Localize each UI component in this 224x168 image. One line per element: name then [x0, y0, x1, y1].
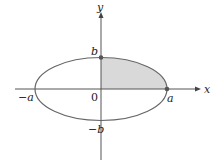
point-a-0: [165, 87, 170, 92]
x-axis-arrow-icon: [195, 87, 201, 92]
label-neg-b: −b: [88, 123, 104, 136]
label-neg-a: −a: [18, 91, 34, 104]
y-axis-label: y: [96, 1, 104, 14]
label-a: a: [167, 92, 174, 105]
x-axis-label: x: [204, 83, 211, 96]
label-b: b: [91, 45, 98, 58]
origin-label: 0: [91, 91, 98, 104]
point-0-b: [99, 55, 104, 60]
ellipse-diagram: y x 0 b −b a −a: [0, 0, 224, 168]
